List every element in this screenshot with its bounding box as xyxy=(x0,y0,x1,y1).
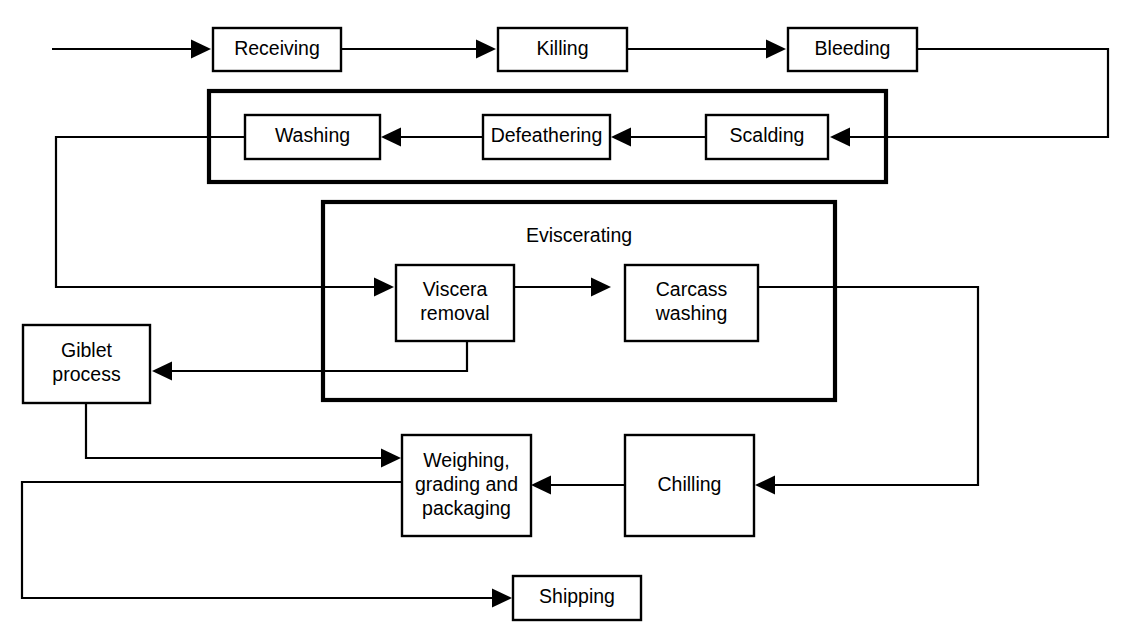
arrow-head-icon xyxy=(611,128,631,147)
node-label: Chilling xyxy=(658,473,722,495)
node-killing[interactable]: Killing xyxy=(498,28,627,71)
arrow-head-icon xyxy=(191,40,211,59)
node-receiving[interactable]: Receiving xyxy=(213,28,341,71)
node-label: Killing xyxy=(536,37,588,59)
node-chilling[interactable]: Chilling xyxy=(625,435,754,536)
arrow-head-icon xyxy=(531,476,551,495)
node-label: Bleeding xyxy=(815,37,891,59)
node-label: grading and xyxy=(415,473,518,495)
node-giblet[interactable]: Gibletprocess xyxy=(23,325,150,403)
node-shipping[interactable]: Shipping xyxy=(513,576,641,620)
flow-diagram-svg: Eviscerating ReceivingKillingBleedingSca… xyxy=(0,0,1128,636)
connector-input-to-receiving xyxy=(52,40,211,59)
node-label: packaging xyxy=(422,497,511,519)
flowchart-canvas: Eviscerating ReceivingKillingBleedingSca… xyxy=(0,0,1128,636)
node-layer: ReceivingKillingBleedingScaldingDefeathe… xyxy=(23,28,917,620)
node-label: Washing xyxy=(275,124,350,146)
node-washing[interactable]: Washing xyxy=(245,115,380,159)
node-label: Viscera xyxy=(423,278,488,300)
node-carcass[interactable]: Carcasswashing xyxy=(625,265,758,341)
connector-receiving-to-killing xyxy=(341,40,496,59)
node-label: Scalding xyxy=(730,124,805,146)
connector-washing-to-viscera xyxy=(56,137,394,297)
arrow-head-icon xyxy=(591,278,611,297)
arrow-head-icon xyxy=(381,128,401,147)
node-label: removal xyxy=(420,302,489,324)
node-bleeding[interactable]: Bleeding xyxy=(788,28,917,71)
connector-carcass-to-chilling xyxy=(755,287,978,495)
node-scalding[interactable]: Scalding xyxy=(706,115,828,159)
connector-viscera-to-giblet xyxy=(152,341,467,381)
connector-killing-to-bleeding xyxy=(627,40,786,59)
arrow-head-icon xyxy=(830,128,850,147)
node-weighing[interactable]: Weighing,grading andpackaging xyxy=(402,435,531,536)
connector-chilling-to-weighing xyxy=(531,476,625,495)
node-label: Defeathering xyxy=(491,124,603,146)
node-label: Receiving xyxy=(234,37,320,59)
connector-line xyxy=(758,287,978,485)
arrow-head-icon xyxy=(755,476,775,495)
node-viscera[interactable]: Visceraremoval xyxy=(396,265,514,341)
arrow-head-icon xyxy=(152,362,172,381)
arrow-head-icon xyxy=(381,449,401,468)
node-label: Weighing, xyxy=(423,449,509,471)
arrow-head-icon xyxy=(476,40,496,59)
node-label: washing xyxy=(655,302,728,324)
connector-line xyxy=(166,341,467,371)
arrow-head-icon xyxy=(374,278,394,297)
connector-viscera-to-carcass xyxy=(514,278,611,297)
node-label: process xyxy=(52,363,121,385)
arrow-head-icon xyxy=(492,589,512,608)
connector-line xyxy=(86,403,388,458)
arrow-head-icon xyxy=(766,40,786,59)
node-label: Shipping xyxy=(539,585,615,607)
connector-scalding-to-defeathering xyxy=(611,128,706,147)
connector-giblet-to-weighing xyxy=(86,403,401,468)
node-defeathering[interactable]: Defeathering xyxy=(483,115,610,159)
group-label: Eviscerating xyxy=(526,224,632,246)
node-label: Carcass xyxy=(656,278,728,300)
connector-defeathering-to-washing xyxy=(381,128,483,147)
node-label: Giblet xyxy=(61,339,113,361)
